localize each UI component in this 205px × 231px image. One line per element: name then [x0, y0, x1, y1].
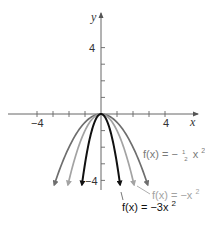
y-tick-label-4: 4	[89, 42, 95, 54]
label-prefix: f(x) = −	[143, 148, 178, 160]
fraction-numerator: 1	[182, 149, 186, 155]
label-neg-half-x2: f(x) = − 1 2 x 2	[143, 144, 205, 163]
x-tick-label-neg4: −4	[31, 117, 44, 129]
label-neg-3x2: f(x) = −3x 2	[122, 199, 177, 213]
fraction-denominator: 2	[184, 156, 188, 162]
label-var: x	[193, 148, 199, 160]
pointer-line-neg-3x2	[121, 192, 123, 200]
pointer-line-neg-x2	[137, 186, 150, 194]
x-axis-label: x	[189, 115, 196, 129]
x-tick-label-4: 4	[163, 117, 169, 129]
y-tick-label-neg4: −4	[85, 175, 98, 187]
label-text: f(x) = −3x	[122, 201, 169, 213]
y-axis-label: y	[90, 10, 97, 24]
label-exp: 2	[195, 188, 199, 195]
label-exp: 2	[172, 199, 177, 208]
label-exp: 2	[201, 147, 205, 154]
parabola-chart: −4 4 x 4 −4 y f(x) = − 1 2 x 2 f(x) = −x…	[0, 0, 205, 231]
